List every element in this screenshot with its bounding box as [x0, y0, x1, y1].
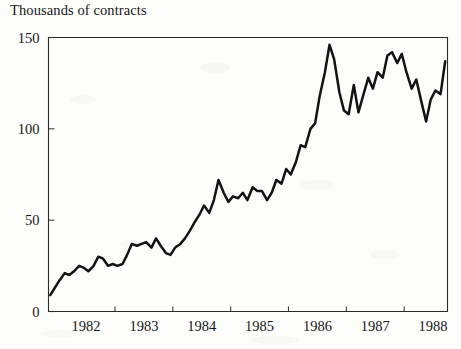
- x-tick-label: 1987: [361, 318, 390, 334]
- x-axis-tick-labels: 1982198319841985198619871988: [72, 318, 448, 334]
- x-tick-label: 1982: [72, 318, 101, 334]
- x-tick-label: 1986: [303, 318, 332, 334]
- x-tick-label: 1988: [419, 318, 448, 334]
- axis-tick-marks: [49, 38, 405, 312]
- chart-screenshot: Thousands of contracts 050100150 1982198…: [0, 0, 461, 349]
- y-axis-tick-labels: 050100150: [18, 30, 40, 320]
- y-tick-label: 100: [18, 121, 40, 137]
- plot-area: 050100150 1982198319841985198619871988: [0, 0, 461, 349]
- chart-svg: 050100150 1982198319841985198619871988: [0, 0, 461, 349]
- y-tick-label: 0: [32, 304, 39, 320]
- x-tick-label: 1985: [245, 318, 274, 334]
- x-tick-label: 1983: [129, 318, 158, 334]
- axis-frame: [49, 38, 448, 312]
- y-tick-label: 150: [18, 30, 40, 46]
- data-series-line: [50, 45, 445, 295]
- y-tick-label: 50: [25, 212, 40, 228]
- x-tick-label: 1984: [187, 318, 217, 334]
